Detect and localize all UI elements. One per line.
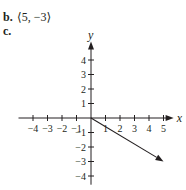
x-tick-label: 1 <box>103 123 108 134</box>
y-tick-label: −1 <box>75 127 86 138</box>
x-tick-label: 3 <box>132 123 137 134</box>
x-tick-label: 4 <box>147 123 152 134</box>
x-tick-label: −3 <box>42 123 53 134</box>
x-tick-label: −4 <box>28 123 39 134</box>
vector-arrowhead-icon <box>155 155 163 162</box>
y-tick-label: −4 <box>75 171 86 182</box>
x-tick-label: 5 <box>161 123 166 134</box>
y-tick-label: 3 <box>81 69 86 80</box>
y-tick-label: 4 <box>81 55 86 66</box>
y-tick-label: −3 <box>75 156 86 167</box>
x-axis-label: x <box>176 111 183 125</box>
x-axis-arrow-icon <box>166 115 174 121</box>
x-tick-label: 2 <box>118 123 123 134</box>
x-tick-label: −2 <box>57 123 68 134</box>
y-tick-label: 2 <box>81 84 86 95</box>
vectors <box>91 118 164 162</box>
vector-plot: xy −4−3−2−112345−4−3−2−11234 <box>0 0 186 190</box>
y-tick-label: 1 <box>81 98 86 109</box>
y-axis-label: y <box>87 28 94 42</box>
y-tick-label: −2 <box>75 142 86 153</box>
axes: xy <box>19 28 183 185</box>
y-axis-arrow-icon <box>88 42 94 50</box>
